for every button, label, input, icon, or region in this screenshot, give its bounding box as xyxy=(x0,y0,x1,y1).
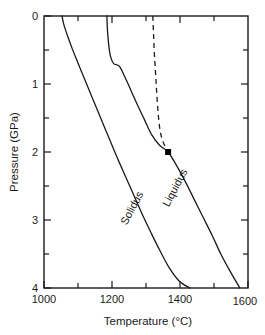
y-tick-label: 0 xyxy=(32,10,38,22)
x-tick-label: 1000 xyxy=(32,293,56,305)
solidus-curve-label: Solidus xyxy=(118,189,146,227)
y-axis-tick-labels: 0 1 2 3 4 xyxy=(32,10,38,294)
y-tick-label: 3 xyxy=(32,214,38,226)
x-axis-tick-labels: 1000 1200 1400 1600 xyxy=(32,293,257,307)
y-tick-label: 1 xyxy=(32,78,38,90)
x-tick-label: 1200 xyxy=(100,293,124,305)
y-axis-major-ticks xyxy=(44,16,51,288)
x-axis-title: Temperature (°C) xyxy=(104,315,192,327)
x-axis-minor-ticks xyxy=(78,283,214,288)
invariant-point-marker xyxy=(165,149,171,155)
liquidus-curve xyxy=(107,16,240,288)
x-tick-label: 1400 xyxy=(168,293,192,305)
chart-figure: 1000 1200 1400 1600 0 1 2 3 4 Pressure (… xyxy=(0,0,265,335)
dashed-metastable-curve xyxy=(153,16,168,152)
y-axis-right-ticks xyxy=(241,50,248,254)
y-tick-label: 4 xyxy=(32,282,38,294)
x-tick-label: 1600 xyxy=(233,295,257,307)
liquidus-curve-label: Liquidus xyxy=(160,166,190,208)
y-axis-title: Pressure (GPa) xyxy=(8,112,20,192)
y-tick-label: 2 xyxy=(32,146,38,158)
phase-diagram-plot: 1000 1200 1400 1600 0 1 2 3 4 Pressure (… xyxy=(0,0,265,335)
x-axis-top-ticks xyxy=(78,16,214,23)
